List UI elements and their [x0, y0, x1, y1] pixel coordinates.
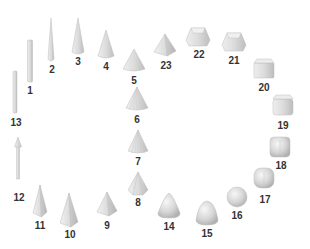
shape-frustum-square-icon: [222, 33, 246, 51]
shape-frustum-square-icon: [186, 28, 210, 46]
shape-label: 3: [75, 57, 81, 67]
shape-label: 15: [201, 229, 212, 239]
shape-label: 13: [10, 118, 21, 128]
shape-rounded-triangle-icon: [196, 201, 218, 225]
shape-rounded-cone-icon: [158, 193, 180, 218]
shape-label: 19: [277, 121, 288, 131]
shape-arrow-rod-icon: [15, 137, 22, 179]
shape-soft-cube-icon: [270, 137, 290, 157]
shape-label: 14: [163, 222, 174, 232]
shape-cube-icon: [254, 59, 274, 78]
shape-label: 4: [103, 62, 109, 72]
shape-label: 21: [228, 56, 239, 66]
shape-label: 10: [64, 230, 75, 240]
shape-label: 18: [275, 161, 286, 171]
shape-label: 5: [131, 76, 137, 86]
shape-faceted-cone-icon: [128, 130, 148, 153]
shape-slim-cone-icon: [72, 18, 84, 54]
shape-label: 9: [104, 221, 110, 231]
shape-slim-pyramid-icon: [33, 185, 47, 217]
shape-thin-rod-icon: [13, 71, 17, 113]
shape-tall-pyramid-icon: [60, 193, 78, 227]
shapes-canvas: [0, 0, 310, 249]
shape-label: 16: [231, 211, 242, 221]
shape-hex-pyramid-icon: [128, 172, 148, 195]
shape-label: 17: [259, 195, 270, 205]
shape-sphere-icon: [227, 187, 247, 207]
shape-bevel-cube-icon: [273, 95, 293, 115]
shape-label: 12: [13, 193, 24, 203]
shape-morph-diagram: 1234567891011121314151617181920212223: [0, 0, 310, 249]
shape-needle-cone-icon: [48, 18, 54, 61]
shape-rounded-cube-icon: [254, 168, 274, 188]
shape-label: 22: [193, 50, 204, 60]
shape-label: 8: [135, 198, 141, 208]
shape-square-pyramid-icon: [154, 34, 176, 56]
shape-faceted-cone-icon: [126, 87, 148, 110]
shape-label: 7: [135, 157, 141, 167]
shape-label: 23: [160, 61, 171, 71]
shape-wide-cone-icon: [123, 49, 145, 71]
shape-label: 20: [258, 83, 269, 93]
shape-cone-icon: [98, 30, 114, 58]
shape-thin-rod-icon: [28, 40, 33, 82]
shape-label: 1: [27, 86, 33, 96]
shape-label: 11: [35, 221, 46, 231]
shape-pyramid-icon: [97, 192, 117, 216]
shape-label: 2: [49, 65, 55, 75]
shape-label: 6: [134, 115, 140, 125]
